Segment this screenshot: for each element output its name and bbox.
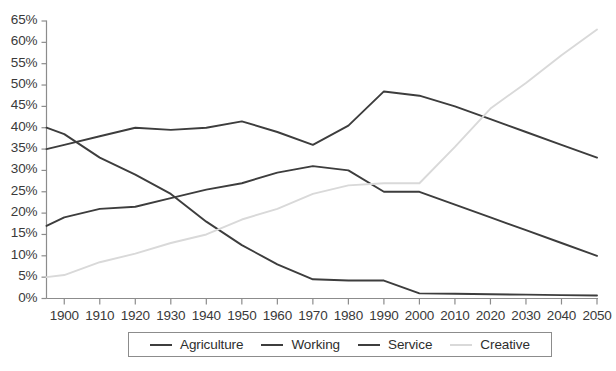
- legend-line-swatch: [150, 344, 172, 346]
- legend-line-swatch: [450, 344, 472, 346]
- legend-item-label: Service: [388, 337, 432, 352]
- y-axis-tick-label: 55%: [0, 55, 38, 70]
- legend-item-working[interactable]: Working: [261, 337, 340, 352]
- y-axis-tick-label: 25%: [0, 183, 38, 198]
- y-axis-tick-label: 20%: [0, 204, 38, 219]
- series-layer: [47, 30, 598, 296]
- axis-layer: [42, 21, 599, 305]
- chart-legend: AgricultureWorkingServiceCreative: [128, 332, 552, 357]
- legend-line-swatch: [358, 344, 380, 346]
- y-axis-tick-label: 0%: [0, 290, 38, 305]
- y-axis-tick-label: 65%: [0, 12, 38, 27]
- series-line-working: [47, 166, 598, 256]
- legend-item-agriculture[interactable]: Agriculture: [150, 337, 243, 352]
- series-line-creative: [47, 30, 598, 278]
- y-axis-tick-label: 45%: [0, 97, 38, 112]
- y-axis-tick-label: 35%: [0, 140, 38, 155]
- legend-item-label: Agriculture: [180, 337, 243, 352]
- y-axis-tick-label: 5%: [0, 268, 38, 283]
- y-axis-tick-label: 60%: [0, 33, 38, 48]
- series-line-service: [47, 91, 598, 157]
- y-axis-tick-label: 10%: [0, 247, 38, 262]
- legend-line-swatch: [261, 344, 283, 346]
- legend-item-label: Creative: [480, 337, 529, 352]
- legend-item-label: Working: [291, 337, 340, 352]
- legend-item-service[interactable]: Service: [358, 337, 432, 352]
- legend-item-creative[interactable]: Creative: [450, 337, 529, 352]
- y-axis-tick-label: 40%: [0, 119, 38, 134]
- y-axis-tick-label: 15%: [0, 225, 38, 240]
- y-axis-tick-label: 30%: [0, 161, 38, 176]
- x-axis-tick-label: 2050: [575, 308, 616, 323]
- series-line-agriculture: [47, 128, 598, 296]
- y-axis-tick-label: 50%: [0, 76, 38, 91]
